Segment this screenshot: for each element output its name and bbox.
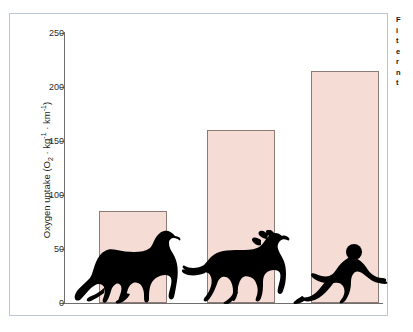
y-axis-title-sup2: -1 [40, 105, 47, 111]
y-axis-title-suffix: ) [41, 102, 52, 105]
y-axis-line [64, 32, 65, 304]
y-tick-label-250: 250 [24, 33, 64, 34]
y-axis-title-mid2: · km [41, 111, 52, 132]
y-tick-label-100: 100 [24, 195, 64, 196]
caption-line-5: r [396, 57, 413, 68]
y-tick-label-200: 200 [24, 87, 64, 88]
caption-line-3: t [396, 36, 413, 47]
y-tick-label-50: 50 [24, 249, 64, 250]
human-runner-silhouette-icon [292, 243, 388, 304]
y-axis-title-sup1: -1 [40, 132, 47, 138]
camel-silhouette-icon [72, 227, 184, 304]
bar-chart: Oxygen uptake (O2 · kg-1 · km-1) 250 200… [0, 0, 413, 332]
caption-line-6: n [396, 68, 413, 79]
y-tick-label-0: 0 [24, 303, 64, 304]
figure-container: Oxygen uptake (O2 · kg-1 · km-1) 250 200… [0, 0, 413, 332]
caption-line-2: i [396, 26, 413, 37]
caption-line-4: e [396, 47, 413, 58]
y-axis-title-sub2: 2 [47, 157, 54, 161]
caption-line-1: F [396, 15, 413, 26]
figure-caption: F i t e r n t [396, 15, 413, 85]
horse-silhouette-icon [182, 230, 294, 304]
caption-line-7: t [396, 78, 413, 85]
y-tick-label-150: 150 [24, 141, 64, 142]
